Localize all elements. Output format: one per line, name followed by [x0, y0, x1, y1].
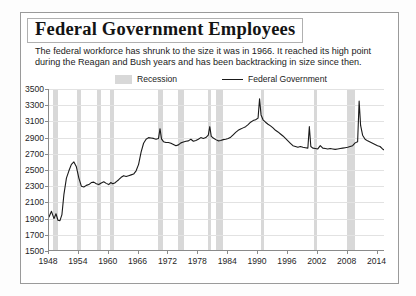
x-axis-tick-mark [287, 251, 288, 254]
x-axis-tick-label: 1972 [158, 256, 177, 266]
x-axis-tick-label: 1960 [98, 256, 117, 266]
page-title: Federal Government Employees [35, 20, 295, 39]
y-axis-tick-label: 1900 [25, 214, 44, 224]
y-axis-tick-label: 3300 [25, 100, 44, 110]
y-axis-tick-mark [45, 186, 48, 187]
y-axis-tick-label: 1500 [25, 246, 44, 256]
y-axis-tick-mark [45, 121, 48, 122]
chart-screenshot: Federal Government Employees The federal… [0, 0, 416, 296]
y-axis-tick-mark [45, 138, 48, 139]
x-axis-tick-label: 1966 [128, 256, 147, 266]
y-axis-tick-mark [45, 219, 48, 220]
x-axis-tick-mark [347, 251, 348, 254]
y-axis-tick-label: 2900 [25, 133, 44, 143]
recession-swatch-icon [115, 75, 132, 84]
series-line-federal-government [49, 89, 384, 251]
y-axis-tick-label: 3500 [25, 84, 44, 94]
y-axis-tick-label: 2100 [25, 197, 44, 207]
x-axis-tick-mark [377, 251, 378, 254]
legend-label-recession: Recession [137, 74, 177, 84]
x-axis-tick-mark [197, 251, 198, 254]
x-axis-tick-mark [317, 251, 318, 254]
legend-label-federal-government: Federal Government [248, 74, 327, 84]
line-swatch-icon [222, 79, 243, 80]
x-axis-tick-mark [78, 251, 79, 254]
x-axis-tick-mark [138, 251, 139, 254]
series-path [49, 99, 384, 221]
subtitle-line-1: The federal workforce has shrunk to the … [35, 46, 371, 56]
x-axis-tick-mark [227, 251, 228, 254]
y-axis-tick-mark [45, 170, 48, 171]
subtitle-line-2: during the Reagan and Bush years and has… [35, 57, 385, 68]
y-axis-tick-mark [45, 202, 48, 203]
plot-area [48, 89, 384, 251]
legend-item-federal-government: Federal Government [222, 74, 327, 84]
plot-area-wrapper: 1500170019002100230025002700290031003300… [48, 89, 384, 251]
x-axis-tick-label: 2014 [367, 256, 386, 266]
x-axis-tick-mark [257, 251, 258, 254]
x-axis-tick-label: 1996 [277, 256, 296, 266]
chart-subtitle: The federal workforce has shrunk to the … [35, 46, 385, 69]
x-axis-tick-label: 1948 [38, 256, 57, 266]
y-axis-tick-mark [45, 235, 48, 236]
chart-legend: Recession Federal Government [35, 74, 385, 88]
x-axis-tick-label: 1990 [248, 256, 267, 266]
y-axis-tick-mark [45, 89, 48, 90]
y-axis-tick-label: 2300 [25, 181, 44, 191]
y-axis-tick-mark [45, 105, 48, 106]
x-axis-tick-mark [108, 251, 109, 254]
x-axis-tick-mark [167, 251, 168, 254]
chart-title-box: Federal Government Employees [27, 18, 303, 43]
x-axis-tick-label: 2002 [307, 256, 326, 266]
y-axis-tick-mark [45, 154, 48, 155]
y-axis-tick-label: 2500 [25, 165, 44, 175]
y-axis-tick-label: 2700 [25, 149, 44, 159]
legend-item-recession: Recession [115, 74, 177, 84]
x-axis-tick-label: 1954 [68, 256, 87, 266]
y-axis-tick-label: 1700 [25, 230, 44, 240]
y-axis-tick-label: 3100 [25, 116, 44, 126]
x-axis-tick-mark [48, 251, 49, 254]
x-axis-tick-label: 1978 [188, 256, 207, 266]
x-axis-tick-label: 1984 [218, 256, 237, 266]
x-axis-tick-label: 2008 [337, 256, 356, 266]
